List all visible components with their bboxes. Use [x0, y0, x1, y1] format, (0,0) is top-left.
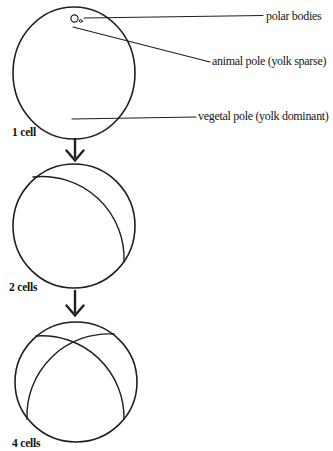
animal-pole-leader-line	[73, 27, 210, 62]
cleavage-furrow-first	[33, 176, 124, 262]
stage-label-4-cells: 4 cells	[12, 437, 40, 449]
stage-label-2-cells: 2 cells	[9, 281, 37, 293]
cleavage-furrow-second-b	[27, 334, 114, 419]
stage-label-1-cell: 1 cell	[12, 126, 36, 138]
cleavage-furrow-second-a	[36, 336, 124, 419]
polar-bodies-leader-line	[84, 16, 263, 19]
cleavage-diagram-page: polar bodies animal pole (yolk sparse) v…	[0, 0, 333, 451]
polar-bodies-label: polar bodies	[266, 10, 321, 23]
vegetal-pole-leader-line	[72, 117, 196, 119]
animal-pole-label: animal pole (yolk sparse)	[212, 55, 326, 68]
polar-body-small-icon	[79, 20, 82, 23]
polar-body-large-icon	[71, 15, 78, 22]
vegetal-pole-label: vegetal pole (yolk dominant)	[198, 110, 329, 123]
